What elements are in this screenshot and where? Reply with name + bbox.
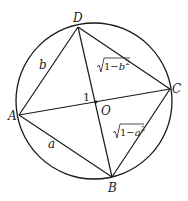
label-side-a: a	[48, 137, 55, 151]
label-sqrt-1-minus-b-squared: 1−b2	[97, 58, 130, 72]
geometry-diagram: D A C B O b a 1 1−b2 1−a2	[0, 0, 188, 201]
label-a: A	[7, 109, 17, 123]
circumcircle	[16, 23, 172, 179]
segment-ab	[19, 115, 112, 177]
svg-text:1−a2: 1−a2	[120, 125, 145, 138]
label-sqrt-1-minus-a-squared: 1−a2	[113, 124, 145, 138]
label-o: O	[101, 104, 111, 118]
label-b: B	[107, 181, 117, 195]
label-side-b: b	[39, 58, 47, 72]
label-d: D	[72, 11, 83, 25]
segment-da	[19, 27, 78, 115]
point-o	[95, 101, 98, 104]
svg-text:1−b2: 1−b2	[104, 59, 130, 72]
label-radius-1: 1	[83, 91, 90, 104]
label-c: C	[172, 82, 181, 96]
